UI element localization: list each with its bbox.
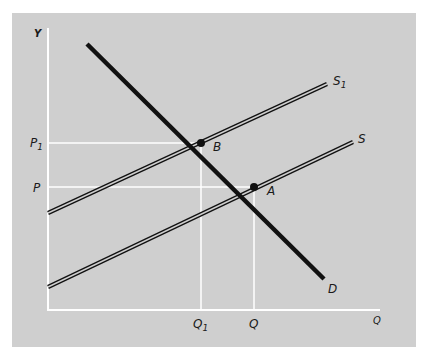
curve-label-d: D: [328, 282, 337, 296]
x-axis-label: Q: [373, 315, 381, 326]
demand-curve-d: [87, 44, 324, 279]
point-a-marker: [250, 183, 258, 191]
point-b-marker: [197, 139, 205, 147]
y-axis-label: Y: [34, 28, 43, 39]
point-label-b: B: [213, 140, 221, 154]
curve-label-s: S: [358, 132, 366, 146]
guide-lines: [48, 143, 254, 310]
tick-label-q1: Q1: [193, 317, 208, 333]
tick-label-p: P: [33, 181, 41, 195]
supply-demand-diagram: Y Q P1 P Q1 Q S1 S D B A: [0, 0, 429, 361]
curve-label-s1: S1: [333, 74, 346, 90]
tick-label-q: Q: [249, 317, 258, 331]
supply-curve-s1: [48, 84, 327, 213]
tick-label-p1: P1: [30, 136, 43, 152]
point-label-a: A: [266, 184, 275, 198]
